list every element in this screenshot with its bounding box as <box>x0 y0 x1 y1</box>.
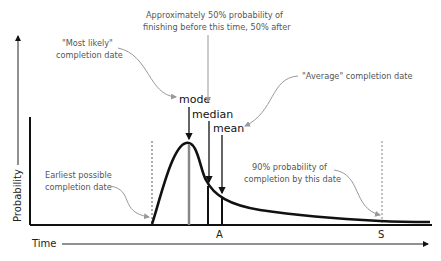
earliest-note-line1: Earliest possible <box>45 170 112 180</box>
most-likely-pointer <box>118 48 176 97</box>
x-tick-s: S <box>378 229 384 240</box>
median-label: median <box>192 108 233 121</box>
distribution-diagram: Probability Time A S mode median mean "M… <box>0 0 441 261</box>
mode-label: mode <box>179 93 210 106</box>
earliest-note-line2: completion date <box>45 182 112 192</box>
earliest-pointer <box>110 186 149 217</box>
p90-note-line1: 90% probability of <box>252 162 328 172</box>
x-tick-a: A <box>216 229 223 240</box>
median-note-line2: finishing before this time, 50% after <box>143 22 291 32</box>
p90-note-line2: completion by this date <box>244 174 341 184</box>
average-pointer <box>245 76 298 126</box>
x-axis-label: Time <box>31 238 56 249</box>
mean-label: mean <box>213 122 244 135</box>
most-likely-note-line1: "Most likely" <box>62 38 113 48</box>
y-axis-label: Probability <box>12 169 23 222</box>
most-likely-note-line2: completion date <box>56 50 123 60</box>
average-note: "Average" completion date <box>302 71 413 81</box>
median-note-line1: Approximately 50% probability of <box>146 10 284 20</box>
